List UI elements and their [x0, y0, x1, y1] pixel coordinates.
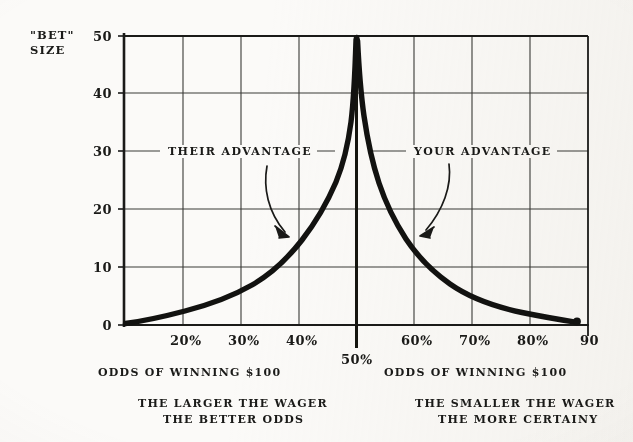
- xtick-label-70: 70%: [459, 333, 490, 348]
- left-caption-line1: THE LARGER THE WAGER: [138, 396, 328, 412]
- xtick-50-number: 50: [341, 352, 360, 367]
- ytick-label-0: 0: [78, 318, 112, 333]
- xtick-70-percent: %: [477, 333, 490, 348]
- xtick-60-percent: %: [419, 333, 432, 348]
- xtick-label-30: 30%: [228, 333, 259, 348]
- xtick-label-60: 60%: [401, 333, 432, 348]
- right-caption-line2: THE MORE CERTAINY: [438, 412, 598, 428]
- xtick-label-40: 40%: [286, 333, 317, 348]
- xtick-20-percent: %: [188, 333, 201, 348]
- your-advantage-arrow: [420, 164, 450, 238]
- ytick-label-30: 30: [78, 144, 112, 159]
- xtick-90-number: 90: [580, 333, 599, 348]
- xtick-50-percent: %: [359, 352, 372, 367]
- xtick-80-percent: %: [535, 333, 548, 348]
- y-axis-title: "BET" SIZE: [30, 28, 75, 58]
- xtick-30-number: 30: [228, 333, 247, 348]
- xtick-label-20: 20%: [170, 333, 201, 348]
- left-caption-line2: THE BETTER ODDS: [163, 412, 304, 428]
- xtick-70-number: 70: [459, 333, 478, 348]
- left-x-axis-label: ODDS OF WINNING $100: [98, 366, 281, 379]
- ytick-label-10: 10: [78, 260, 112, 275]
- chart-page: "BET" SIZE 50 40 30 20 10 0 20% 30% 40% …: [0, 0, 633, 442]
- xtick-40-percent: %: [304, 333, 317, 348]
- right-x-axis-label: ODDS OF WINNING $100: [384, 366, 567, 379]
- xtick-label-80: 80%: [517, 333, 548, 348]
- annotation-their-advantage: THEIR ADVANTAGE: [163, 145, 317, 158]
- curve-right-endpoint: [573, 318, 581, 326]
- xtick-label-50: 50%: [341, 352, 372, 367]
- right-caption-line1: THE SMALLER THE WAGER: [415, 396, 615, 412]
- annotation-your-advantage: YOUR ADVANTAGE: [409, 145, 557, 158]
- xtick-30-percent: %: [246, 333, 259, 348]
- xtick-60-number: 60: [401, 333, 420, 348]
- xtick-80-number: 80: [517, 333, 536, 348]
- xtick-40-number: 40: [286, 333, 305, 348]
- bet-size-curve: [126, 38, 575, 324]
- their-advantage-arrow: [266, 166, 289, 238]
- ytick-label-40: 40: [78, 86, 112, 101]
- xtick-20-number: 20: [170, 333, 189, 348]
- ytick-label-50: 50: [78, 29, 112, 44]
- ytick-label-20: 20: [78, 202, 112, 217]
- xtick-label-90: 90: [580, 333, 599, 348]
